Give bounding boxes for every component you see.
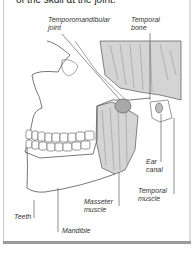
label-temporal-bone: Temporal bone <box>131 16 160 32</box>
label-teeth: Teeth <box>14 213 31 221</box>
ear-canal-shape <box>156 103 163 113</box>
teeth-row <box>26 130 94 151</box>
label-temporal-muscle: Temporal muscle <box>138 187 167 203</box>
label-mandible: Mandible <box>62 227 90 235</box>
label-ear-canal: Ear canal <box>146 158 163 174</box>
label-tmj: Temporomandibular joint <box>48 16 110 32</box>
tmj-condyle <box>115 99 131 113</box>
label-masseter-muscle: Masseter muscle <box>84 198 113 214</box>
